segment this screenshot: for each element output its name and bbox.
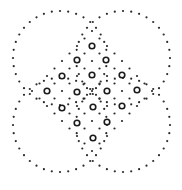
lattice-dot bbox=[53, 67, 55, 69]
circle-dot bbox=[168, 132, 170, 134]
circle-dot bbox=[130, 170, 132, 172]
lattice-dot bbox=[91, 150, 93, 152]
circle-dot bbox=[13, 65, 15, 67]
circle-dot bbox=[35, 165, 37, 167]
circle-dot bbox=[166, 41, 168, 43]
circle-dot bbox=[114, 103, 116, 105]
circle-dot bbox=[103, 41, 105, 43]
lattice-dot bbox=[128, 97, 130, 99]
circle-dot bbox=[130, 11, 132, 13]
lattice-dot bbox=[128, 82, 130, 84]
circle-dot bbox=[158, 87, 160, 89]
lattice-dot bbox=[76, 75, 78, 77]
circle-dot bbox=[92, 93, 94, 95]
ring-marker bbox=[134, 87, 140, 93]
lattice-dot bbox=[83, 97, 85, 99]
circle-dot bbox=[43, 13, 45, 15]
circle-dot bbox=[51, 103, 53, 105]
circle-dot bbox=[138, 80, 140, 82]
circle-dot bbox=[15, 73, 17, 75]
lattice-dot bbox=[53, 82, 55, 84]
lattice-dot bbox=[143, 82, 145, 84]
ring-marker bbox=[74, 57, 80, 63]
circle-dot bbox=[166, 108, 168, 110]
circle-dot bbox=[86, 94, 88, 96]
circle-dot bbox=[106, 80, 108, 82]
circle-dot bbox=[78, 73, 80, 75]
circle-dot bbox=[43, 168, 45, 170]
circle-dot bbox=[106, 168, 108, 170]
circle-dot bbox=[67, 103, 69, 105]
circle-dot bbox=[100, 147, 102, 149]
circle-dot bbox=[158, 27, 160, 29]
circle-dot bbox=[89, 160, 91, 162]
lattice-dot bbox=[38, 97, 40, 99]
circle-dot bbox=[18, 80, 20, 82]
lattice-dot bbox=[98, 52, 100, 54]
lattice-dot bbox=[83, 82, 85, 84]
circle-dot bbox=[130, 103, 132, 105]
circle-dot bbox=[35, 98, 37, 100]
circle-dot bbox=[82, 165, 84, 167]
circle-dot bbox=[100, 80, 102, 82]
circle-dot bbox=[76, 49, 78, 51]
circle-dot bbox=[138, 168, 140, 170]
ring-marker bbox=[119, 103, 125, 109]
ring-marker bbox=[89, 72, 95, 78]
circle-dot bbox=[145, 165, 147, 167]
lattice-dot bbox=[83, 142, 85, 144]
lattice-dot bbox=[121, 120, 123, 122]
lattice-dot bbox=[76, 105, 78, 107]
circle-dot bbox=[130, 78, 132, 80]
circle-dot bbox=[13, 132, 15, 134]
circle-dot bbox=[59, 10, 61, 12]
circle-dot bbox=[86, 154, 88, 156]
lattice-dot bbox=[113, 112, 115, 114]
circle-dot bbox=[89, 93, 91, 95]
lattice-dot bbox=[136, 105, 138, 107]
ring-marker bbox=[104, 119, 110, 125]
circle-dot bbox=[29, 88, 31, 90]
circle-dot bbox=[51, 78, 53, 80]
lattice-dot bbox=[83, 52, 85, 54]
lattice-dot bbox=[46, 75, 48, 77]
circle-dot bbox=[13, 116, 15, 118]
lattice-dot bbox=[76, 45, 78, 47]
lattice-dot bbox=[98, 97, 100, 99]
lattice-dot bbox=[128, 67, 130, 69]
ring-marker bbox=[74, 89, 80, 95]
circle-dot bbox=[145, 98, 147, 100]
circle-dot bbox=[145, 83, 147, 85]
lattice-dot bbox=[113, 52, 115, 54]
lattice-dot bbox=[38, 82, 40, 84]
circle-dot bbox=[163, 147, 165, 149]
circle-dot bbox=[138, 101, 140, 103]
lattice-dot bbox=[143, 97, 145, 99]
circle-dot bbox=[23, 27, 25, 29]
circle-dot bbox=[51, 170, 53, 172]
circle-dot bbox=[81, 33, 83, 35]
circle-dot bbox=[75, 80, 77, 82]
lattice-dot bbox=[128, 112, 130, 114]
lattice-dot bbox=[91, 30, 93, 32]
circle-dot bbox=[75, 101, 77, 103]
circle-dot bbox=[100, 100, 102, 102]
lattice-dot bbox=[98, 82, 100, 84]
circle-dot bbox=[106, 101, 108, 103]
circle-dot bbox=[23, 87, 25, 89]
circle-dot bbox=[103, 108, 105, 110]
lattice-dot bbox=[68, 82, 70, 84]
ring-marker bbox=[103, 57, 109, 63]
circle-dot bbox=[122, 10, 124, 12]
circle-dot bbox=[114, 170, 116, 172]
circle-dot bbox=[168, 116, 170, 118]
lattice-dot bbox=[53, 97, 55, 99]
lattice-dot bbox=[76, 135, 78, 137]
circle-dot bbox=[114, 11, 116, 13]
circle-dot bbox=[152, 21, 154, 23]
circle-dot bbox=[89, 21, 91, 23]
lattice-dot bbox=[106, 75, 108, 77]
circle-dot bbox=[75, 168, 77, 170]
lattice-dot bbox=[91, 120, 93, 122]
lattice-dot bbox=[91, 60, 93, 62]
